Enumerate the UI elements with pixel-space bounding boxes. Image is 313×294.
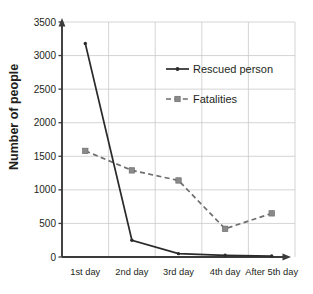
x-tick-label: 2nd day <box>115 267 148 277</box>
legend-entry-rescued-person: Rescued person <box>166 63 273 75</box>
legend-entry-fatalities: Fatalities <box>166 93 238 105</box>
x-axis-category-labels: 1st day2nd day3rd day4th dayAfter 5th da… <box>70 267 298 277</box>
y-axis <box>59 18 66 257</box>
y-tick-label: 2000 <box>34 117 57 128</box>
x-tick-label: 4th day <box>210 267 241 277</box>
line-chart: 0500100015002000250030003500 1st day2nd … <box>0 0 313 294</box>
chart-container: 0500100015002000250030003500 1st day2nd … <box>0 0 313 294</box>
legend-label-rescued-person: Rescued person <box>193 63 273 75</box>
x-axis <box>62 254 291 261</box>
y-tick-label: 2500 <box>34 84 57 95</box>
x-tick-label: 1st day <box>70 267 100 277</box>
y-axis-title: Number of people <box>7 64 21 170</box>
x-tick-label: 3rd day <box>163 267 194 277</box>
y-tick-label: 1000 <box>34 184 57 195</box>
gridlines-horizontal <box>62 22 295 223</box>
y-tick-label: 3500 <box>34 17 57 28</box>
y-tick-label: 500 <box>39 218 56 229</box>
y-tick-label: 3000 <box>34 50 57 61</box>
y-tick-label: 1500 <box>34 151 57 162</box>
y-axis-tick-labels: 0500100015002000250030003500 <box>34 17 57 263</box>
legend-label-fatalities: Fatalities <box>193 93 238 105</box>
chart-legend: Rescued person Fatalities <box>166 63 273 105</box>
gridlines-vertical <box>62 22 295 257</box>
x-tick-label: After 5th day <box>245 267 298 277</box>
y-tick-label: 0 <box>50 252 56 263</box>
